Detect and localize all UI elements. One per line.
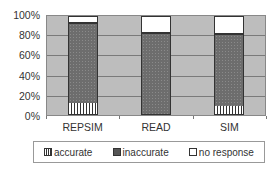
x-tick-mark bbox=[46, 116, 47, 119]
segment-accurate bbox=[215, 106, 243, 114]
y-tick-label: 80% bbox=[0, 29, 40, 41]
legend-item-inaccurate: inaccurate bbox=[113, 147, 169, 158]
legend: accurate inaccurate no response bbox=[33, 141, 265, 163]
stacked-bar-chart: accurate inaccurate no response 0%20%40%… bbox=[0, 0, 280, 173]
segment-no-response bbox=[142, 17, 170, 33]
x-tick-mark bbox=[119, 116, 120, 119]
segment-inaccurate bbox=[215, 34, 243, 106]
legend-label: inaccurate bbox=[123, 147, 169, 158]
segment-accurate bbox=[69, 103, 97, 114]
segment-inaccurate bbox=[142, 33, 170, 114]
inaccurate-swatch-icon bbox=[113, 148, 121, 156]
y-tick-label: 0% bbox=[0, 110, 40, 122]
x-tick-mark bbox=[266, 116, 267, 119]
x-tick-mark bbox=[193, 116, 194, 119]
accurate-swatch-icon bbox=[44, 148, 52, 156]
legend-item-no-response: no response bbox=[189, 147, 254, 158]
bar-sim bbox=[214, 16, 244, 115]
legend-label: no response bbox=[199, 147, 254, 158]
segment-no-response bbox=[215, 17, 243, 34]
bar-read bbox=[141, 16, 171, 115]
bar-repsim bbox=[68, 16, 98, 115]
x-tick-label: SIM bbox=[194, 121, 264, 133]
y-tick-label: 60% bbox=[0, 49, 40, 61]
segment-inaccurate bbox=[69, 23, 97, 104]
legend-label: accurate bbox=[54, 147, 92, 158]
x-tick-label: REPSIM bbox=[48, 121, 118, 133]
y-tick-label: 20% bbox=[0, 90, 40, 102]
x-tick-label: READ bbox=[121, 121, 191, 133]
y-tick-label: 100% bbox=[0, 9, 40, 21]
no-response-swatch-icon bbox=[189, 148, 197, 156]
plot-area bbox=[46, 15, 266, 116]
y-tick-label: 40% bbox=[0, 70, 40, 82]
legend-item-accurate: accurate bbox=[44, 147, 92, 158]
